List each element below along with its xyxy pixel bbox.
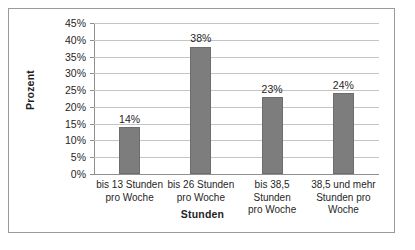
y-axis-tick-label: 40% <box>46 34 86 46</box>
bar[interactable] <box>333 93 354 174</box>
y-axis-tick-label: 15% <box>46 118 86 130</box>
y-axis-tick-label: 30% <box>46 67 86 79</box>
y-axis-tick-mark <box>90 40 94 41</box>
y-axis-tick-mark <box>90 90 94 91</box>
y-axis-tick-mark <box>90 140 94 141</box>
gridline <box>94 73 379 74</box>
y-axis-tick-label: 20% <box>46 101 86 113</box>
y-axis-tick-mark <box>90 124 94 125</box>
y-axis-tick-mark <box>90 157 94 158</box>
gridline <box>94 40 379 41</box>
gridline <box>94 174 379 175</box>
gridline <box>94 57 379 58</box>
bar[interactable] <box>190 47 211 175</box>
bar-value-label: 24% <box>333 79 354 91</box>
x-axis-category-label: bis 13 Stundenpro Woche <box>94 179 165 204</box>
y-axis-tick-labels: 45%40%35%30%25%20%15%10%5%0% <box>42 23 86 174</box>
plot-area <box>94 23 379 174</box>
y-axis-tick-label: 35% <box>46 51 86 63</box>
y-axis-title: Prozent <box>24 45 36 135</box>
y-axis-tick-label: 25% <box>46 84 86 96</box>
bar-value-label: 23% <box>262 83 283 95</box>
x-axis-category-label: bis 26 Stundenpro Woche <box>165 179 236 204</box>
bar[interactable] <box>262 97 283 174</box>
chart-container: Prozent 45%40%35%30%25%20%15%10%5%0% 14%… <box>8 8 395 233</box>
gridline <box>94 23 379 24</box>
x-axis-title: Stunden <box>9 208 396 220</box>
y-axis-tick-mark <box>90 73 94 74</box>
bar-value-label: 38% <box>190 32 211 44</box>
y-axis-tick-mark <box>90 57 94 58</box>
y-axis-tick-mark <box>90 107 94 108</box>
bar[interactable] <box>119 127 140 174</box>
y-axis-tick-mark <box>90 174 94 175</box>
y-axis-tick-label: 45% <box>46 17 86 29</box>
y-axis-tick-label: 0% <box>46 168 86 180</box>
y-axis-tick-mark <box>90 23 94 24</box>
y-axis-tick-label: 5% <box>46 151 86 163</box>
bar-value-label: 14% <box>119 113 140 125</box>
y-axis-tick-label: 10% <box>46 134 86 146</box>
